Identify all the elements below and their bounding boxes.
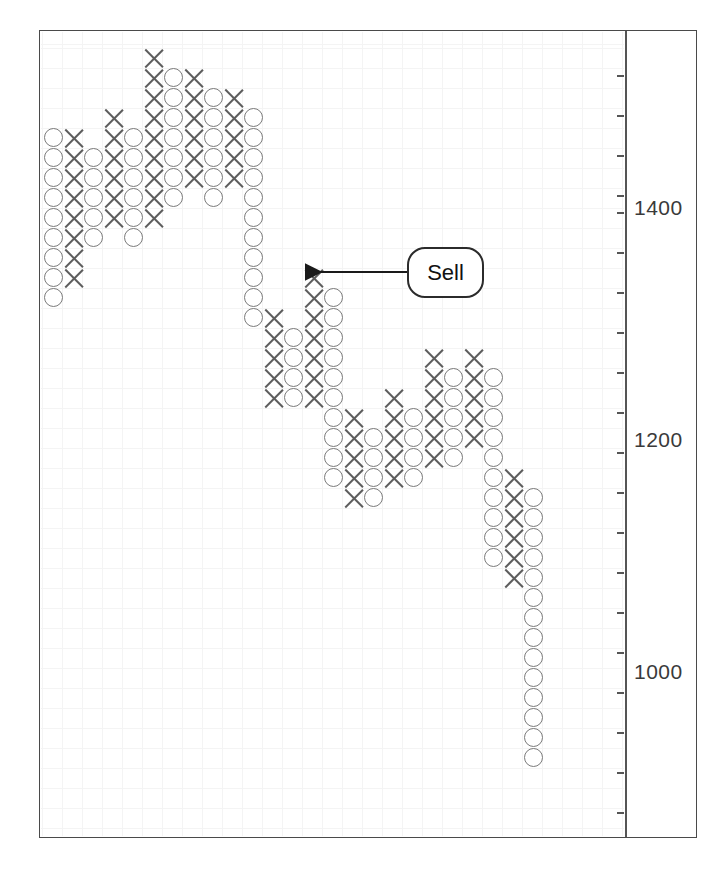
- plot-area: [41, 32, 624, 836]
- pf-x-mark: [64, 148, 84, 168]
- pf-o-mark: [244, 168, 263, 187]
- pf-o-mark: [44, 128, 63, 147]
- pf-o-mark: [524, 728, 543, 747]
- pf-x-mark: [264, 368, 284, 388]
- pf-o-mark: [44, 168, 63, 187]
- pf-x-mark: [184, 108, 204, 128]
- pf-o-mark: [204, 148, 223, 167]
- pf-o-mark: [164, 128, 183, 147]
- pf-x-mark: [304, 348, 324, 368]
- pf-x-mark: [144, 148, 164, 168]
- pf-o-mark: [124, 188, 143, 207]
- pf-o-mark: [364, 488, 383, 507]
- pf-x-mark: [304, 368, 324, 388]
- pf-o-mark: [444, 408, 463, 427]
- pf-o-mark: [164, 148, 183, 167]
- pf-x-mark: [184, 68, 204, 88]
- pf-o-mark: [444, 388, 463, 407]
- pf-o-mark: [164, 68, 183, 87]
- pf-x-mark: [64, 248, 84, 268]
- pf-o-mark: [524, 488, 543, 507]
- pf-o-mark: [244, 188, 263, 207]
- pf-x-mark: [504, 468, 524, 488]
- pf-o-mark: [364, 468, 383, 487]
- y-axis-tick: [617, 75, 624, 77]
- pf-o-mark: [244, 148, 263, 167]
- y-axis-tick: [617, 772, 624, 774]
- y-axis-tick: [617, 292, 624, 294]
- pf-x-mark: [304, 388, 324, 408]
- pf-o-mark: [164, 108, 183, 127]
- pf-o-mark: [244, 108, 263, 127]
- pf-o-mark: [524, 588, 543, 607]
- pf-o-mark: [164, 168, 183, 187]
- y-axis-tick: [617, 732, 624, 734]
- pf-x-mark: [184, 128, 204, 148]
- y-axis-tick: [617, 372, 624, 374]
- pf-o-mark: [244, 208, 263, 227]
- pf-marks-layer: [41, 32, 624, 836]
- y-axis-label: 1400: [634, 196, 683, 220]
- pf-o-mark: [404, 428, 423, 447]
- pf-x-mark: [384, 408, 404, 428]
- pf-o-mark: [244, 228, 263, 247]
- y-axis-tick: [617, 195, 624, 197]
- pf-x-mark: [264, 328, 284, 348]
- pf-o-mark: [124, 148, 143, 167]
- pf-x-mark: [184, 168, 204, 188]
- pf-x-mark: [64, 188, 84, 208]
- y-axis-tick: [617, 652, 624, 654]
- pf-o-mark: [204, 108, 223, 127]
- pf-o-mark: [524, 628, 543, 647]
- pf-o-mark: [84, 228, 103, 247]
- y-axis-tick: [617, 212, 624, 214]
- pf-x-mark: [104, 208, 124, 228]
- pf-o-mark: [244, 308, 263, 327]
- pf-o-mark: [324, 448, 343, 467]
- y-axis-tick: [617, 532, 624, 534]
- y-axis-label: 1000: [634, 660, 683, 684]
- pf-o-mark: [44, 288, 63, 307]
- pf-x-mark: [64, 168, 84, 188]
- pf-x-mark: [104, 188, 124, 208]
- pf-x-mark: [104, 108, 124, 128]
- pf-x-mark: [504, 488, 524, 508]
- pf-x-mark: [224, 168, 244, 188]
- pf-x-mark: [224, 88, 244, 108]
- pf-x-mark: [424, 448, 444, 468]
- pf-o-mark: [524, 528, 543, 547]
- pf-o-mark: [44, 148, 63, 167]
- pf-o-mark: [484, 508, 503, 527]
- pf-o-mark: [524, 608, 543, 627]
- pf-x-mark: [264, 348, 284, 368]
- pf-o-mark: [124, 128, 143, 147]
- pf-o-mark: [324, 388, 343, 407]
- pf-o-mark: [244, 288, 263, 307]
- pf-x-mark: [184, 88, 204, 108]
- pf-o-mark: [44, 188, 63, 207]
- pf-x-mark: [264, 388, 284, 408]
- pf-o-mark: [484, 548, 503, 567]
- y-axis-tick: [617, 155, 624, 157]
- pf-o-mark: [244, 248, 263, 267]
- pf-o-mark: [204, 128, 223, 147]
- pf-x-mark: [344, 468, 364, 488]
- pf-x-mark: [424, 428, 444, 448]
- pf-o-mark: [164, 188, 183, 207]
- pf-x-mark: [64, 268, 84, 288]
- pf-o-mark: [404, 448, 423, 467]
- pf-x-mark: [144, 48, 164, 68]
- pf-x-mark: [504, 548, 524, 568]
- pf-x-mark: [344, 428, 364, 448]
- pf-x-mark: [384, 388, 404, 408]
- pf-x-mark: [64, 128, 84, 148]
- pf-x-mark: [104, 128, 124, 148]
- pf-x-mark: [344, 408, 364, 428]
- pf-o-mark: [324, 368, 343, 387]
- pf-x-mark: [384, 468, 404, 488]
- pf-x-mark: [144, 168, 164, 188]
- pf-x-mark: [384, 448, 404, 468]
- pf-o-mark: [84, 188, 103, 207]
- pf-x-mark: [344, 448, 364, 468]
- pf-o-mark: [524, 548, 543, 567]
